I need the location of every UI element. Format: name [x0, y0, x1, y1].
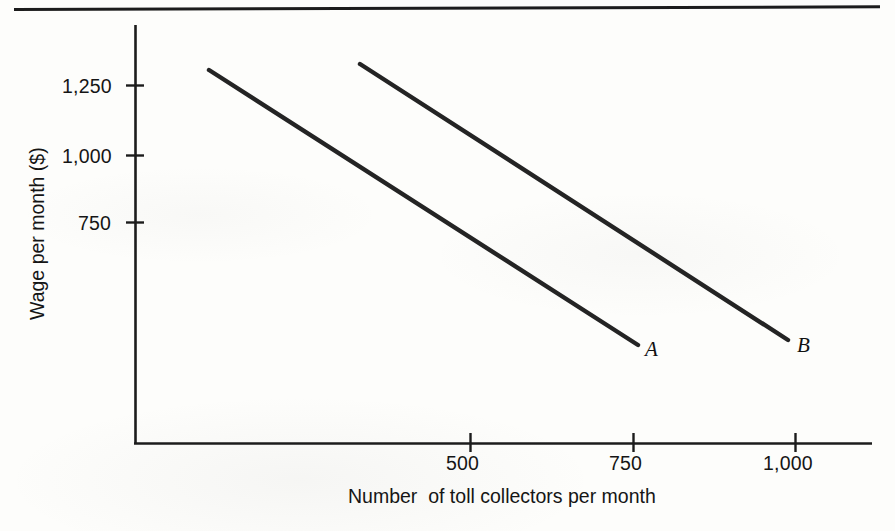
y-tick-label-1000: 1,000 [62, 145, 112, 168]
x-tick-label-1000: 1,000 [763, 452, 813, 475]
curve-label-b: B [797, 333, 810, 358]
series-line-b [360, 64, 788, 340]
figure-container: 1,250 1,000 750 500 750 1,000 Wage per m… [0, 0, 895, 531]
series-line-a [209, 70, 638, 345]
x-tick-label-500: 500 [446, 452, 479, 475]
y-axis-title: Wage per month ($) [26, 147, 49, 320]
x-tick-label-750: 750 [609, 452, 642, 475]
curve-label-a: A [645, 337, 658, 362]
y-tick-label-750: 750 [78, 212, 111, 235]
y-tick-label-1250: 1,250 [62, 75, 112, 98]
x-axis-title: Number of toll collectors per month [348, 485, 656, 508]
